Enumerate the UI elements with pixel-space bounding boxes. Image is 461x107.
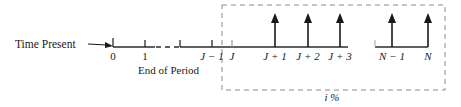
cash-flow-diagram: Time Present End of Period 0 1 J − 1 J J…: [0, 0, 461, 107]
period-label-j: J: [230, 51, 235, 62]
cashflow-arrow-n: [424, 13, 432, 47]
period-label-0: 0: [110, 51, 116, 62]
period-label-j-plus-2: J + 2: [296, 51, 319, 62]
period-label-n: N: [424, 51, 431, 62]
cashflow-arrow-j-plus-1: [271, 13, 279, 47]
period-label-n-minus-1: N − 1: [379, 51, 405, 62]
time-present-pointer-icon: [88, 42, 113, 48]
cashflow-arrow-n-minus-1: [388, 13, 396, 47]
period-label-j-minus-1: J − 1: [200, 51, 223, 62]
cashflow-arrow-j-plus-2: [304, 13, 312, 47]
period-label-1: 1: [142, 51, 148, 62]
period-label-j-plus-3: J + 3: [328, 51, 351, 62]
cashflow-arrow-j-plus-3: [336, 13, 344, 47]
interest-rate-label: i %: [325, 92, 340, 103]
end-of-period-label: End of Period: [138, 65, 199, 76]
time-present-label: Time Present: [15, 39, 76, 51]
period-label-j-plus-1: J + 1: [263, 51, 286, 62]
